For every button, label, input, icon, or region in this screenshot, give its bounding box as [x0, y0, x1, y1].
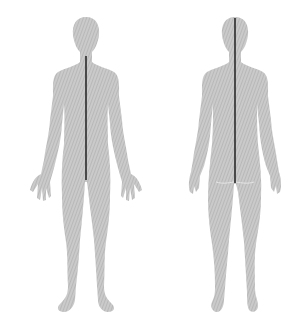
front-view-figure — [30, 17, 142, 312]
back-view-figure — [189, 17, 281, 312]
body-diagram — [0, 0, 295, 329]
